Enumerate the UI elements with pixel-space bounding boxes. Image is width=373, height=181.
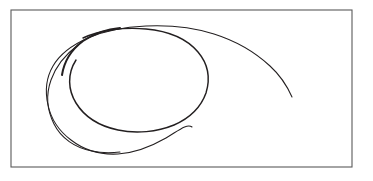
paper-background <box>0 0 373 181</box>
drawing-canvas: A pen sketch of a single continuous spir… <box>0 0 373 181</box>
sketch-svg <box>0 0 373 181</box>
